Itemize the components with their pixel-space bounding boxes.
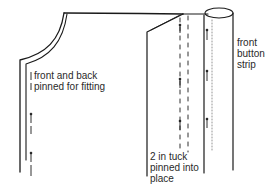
armhole-outer-line: [20, 13, 64, 172]
pin-icon: [206, 29, 208, 40]
pin-icon: [179, 78, 181, 88]
label-front-back-pinned: front and back pinned for fitting: [34, 70, 105, 92]
pin-icon: [30, 113, 32, 123]
label-line: button: [237, 48, 265, 59]
shoulder-top-edge: [64, 13, 183, 14]
label-line: pinned into: [150, 162, 199, 173]
label-line: pinned for fitting: [34, 81, 105, 92]
label-line: place: [150, 173, 199, 184]
button-strip-top-ellipse: [205, 8, 233, 18]
label-line: 2 in tuck: [150, 151, 199, 162]
label-line: front: [237, 37, 265, 48]
pin-icon: [206, 70, 208, 81]
tuck-fold-inner: [151, 15, 180, 30]
pin-icon: [206, 118, 208, 128]
pin-icon: [30, 152, 32, 162]
label-front-button-strip: front button strip: [237, 37, 265, 70]
pin-icon: [179, 120, 181, 130]
label-line: strip: [237, 59, 265, 70]
pin-icon: [179, 24, 181, 33]
garment-diagram: [0, 0, 275, 188]
label-tuck-pinned: 2 in tuck pinned into place: [150, 151, 199, 184]
label-line: front and back: [34, 70, 105, 81]
